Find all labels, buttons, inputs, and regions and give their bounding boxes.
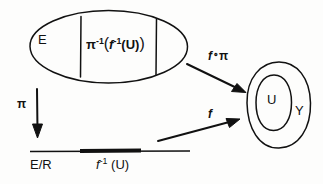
- arrow-f-label: f: [208, 108, 212, 120]
- arrow-f-shaft: [158, 121, 233, 141]
- highlighted-segment-label: f-1 (U): [96, 157, 129, 171]
- arrow-f: [158, 119, 240, 142]
- arrow-f-compose-pi: [187, 64, 246, 93]
- fopi-pi-symbol: π: [219, 49, 228, 63]
- preimage-set-symbol: U: [126, 37, 135, 52]
- diagram-canvas: E π-1(f-1(U)) f∘π π f U Y E/R f-1 (U): [0, 0, 323, 184]
- total-space-divider-right: [156, 19, 157, 75]
- preimage-pi-symbol: π: [86, 37, 96, 52]
- arrow-f-head: [226, 119, 240, 128]
- arrow-pi: [33, 89, 43, 138]
- preimage-pi-exponent: -1: [96, 36, 104, 46]
- preimage-close-paren: ): [139, 35, 144, 52]
- finvu-set-symbol: (U): [111, 157, 129, 172]
- preimage-region-label: π-1(f-1(U)): [86, 36, 145, 52]
- arrow-f-compose-pi-head: [232, 84, 247, 93]
- quotient-space-group: [30, 151, 190, 152]
- target-space-inner-label: U: [267, 93, 276, 106]
- fopi-composition-operator: ∘: [212, 50, 219, 60]
- arrow-pi-head: [33, 124, 43, 138]
- target-space-outer-label: Y: [295, 104, 304, 117]
- finvu-exponent: -1: [100, 156, 108, 166]
- quotient-space-label: E/R: [30, 158, 52, 171]
- arrow-pi-label: π: [17, 98, 26, 110]
- total-space-divider-left: [81, 17, 82, 78]
- total-space-label: E: [38, 33, 47, 46]
- quotient-space-highlighted-segment: [80, 151, 141, 152]
- arrow-f-compose-pi-label: f∘π: [208, 50, 228, 62]
